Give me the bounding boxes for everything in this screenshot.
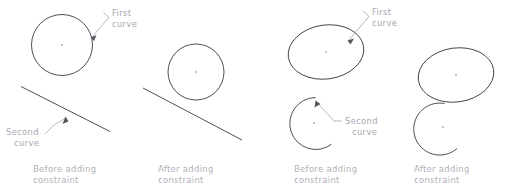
panel-4-group: [414, 43, 498, 155]
panel3-second-curve-leader: [317, 102, 343, 121]
panel-1-group: [21, 13, 110, 135]
panel1-first-curve-leader: [91, 13, 109, 39]
panel3-first-curve-leader: [348, 11, 369, 41]
panel3-second-curve-arc[interactable]: [290, 98, 332, 150]
panel1-circle-center-dot: [61, 44, 63, 46]
panel3-first-curve-label-line2: curve: [372, 18, 397, 28]
panel1-second-curve-line[interactable]: [21, 87, 110, 132]
panel-2-group: [143, 44, 242, 140]
panel3-first-curve-label-line1: First: [372, 7, 392, 17]
panel1-first-curve-label-line1: First: [112, 8, 132, 18]
tangent-constraint-diagram: First curve Second curve First curve Sec…: [0, 0, 509, 195]
panel3-second-curve-arrowhead: [315, 101, 321, 108]
panel1-second-curve-leader: [45, 119, 65, 135]
panel3-caption-line2: constraint: [294, 175, 340, 185]
panel2-caption-line1: After adding: [158, 164, 214, 174]
panel1-second-curve-label-line1: Second: [6, 127, 39, 137]
panel1-caption-line2: constraint: [33, 175, 79, 185]
panel3-caption-line1: Before adding: [294, 164, 357, 174]
panel4-arc-center-dot: [442, 126, 444, 128]
figure-canvas: First curve Second curve First curve Sec…: [0, 0, 509, 195]
panel3-second-curve-label-line2: curve: [352, 127, 377, 137]
panel2-second-curve-line[interactable]: [143, 88, 242, 140]
panel1-caption-line1: Before adding: [33, 164, 96, 174]
panel3-arc-center-dot: [313, 122, 315, 124]
panel4-ellipse-center-dot: [455, 74, 457, 76]
panel4-caption-line2: constraint: [414, 175, 460, 185]
panel4-second-curve-arc[interactable]: [414, 103, 457, 155]
panel1-second-curve-arrowhead: [63, 117, 69, 125]
panel3-second-curve-label-line1: Second: [345, 116, 378, 126]
panel3-first-curve-arrowhead: [348, 39, 355, 45]
panel1-first-curve-label-line2: curve: [112, 19, 137, 29]
panel2-caption-line2: constraint: [158, 175, 204, 185]
panel2-circle-center-dot: [195, 71, 197, 73]
panel1-second-curve-label-line2: curve: [14, 138, 39, 148]
panel4-caption-line1: After adding: [414, 164, 470, 174]
panel3-ellipse-center-dot: [325, 51, 327, 53]
